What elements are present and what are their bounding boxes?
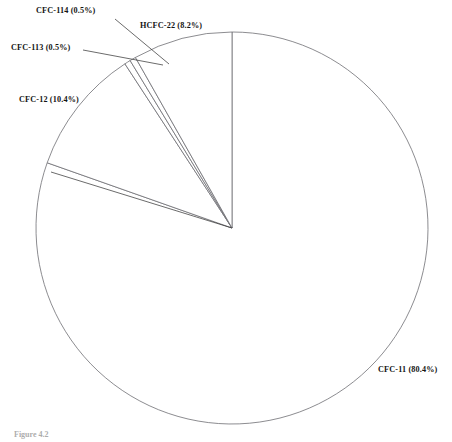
- pie-label-cfc113: CFC-113 (0.5%): [11, 44, 70, 52]
- pie-label-cfc114: CFC-114 (0.5%): [36, 7, 95, 15]
- pie-label-cfc11: CFC-11 (80.4%): [378, 366, 437, 374]
- pie-chart-canvas: [0, 0, 452, 442]
- pie-chart-figure: CFC-114 (0.5%) HCFC-22 (8.2%) CFC-113 (0…: [0, 0, 452, 442]
- figure-caption: Figure 4.2: [14, 431, 49, 439]
- pie-label-cfc12: CFC-12 (10.4%): [19, 96, 79, 104]
- pie-slice-group: [36, 32, 428, 424]
- pie-label-hcfc22: HCFC-22 (8.2%): [140, 22, 202, 30]
